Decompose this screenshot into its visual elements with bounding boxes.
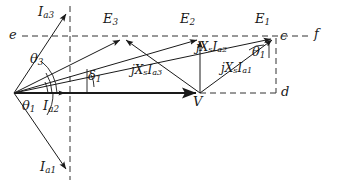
axis-label-c: c: [280, 29, 287, 42]
label-jXsIa2: jXsIa2: [196, 41, 227, 54]
phasor-label-Ia2: Ia2: [43, 99, 59, 113]
phasor-vectors-group: [14, 14, 272, 169]
phasor-label-E2: E2: [180, 12, 195, 26]
phasor-label-E3: E3: [103, 12, 118, 26]
label-jXsIa3: jXsIa3: [131, 64, 162, 77]
angle-label-delta1: δ1: [88, 69, 101, 83]
phasor-label-Ia1: Ia1: [40, 160, 56, 174]
angle-label-theta3: θ3: [30, 52, 43, 66]
phasor-label-E1: E1: [255, 12, 270, 26]
axis-label-e: e: [9, 28, 17, 41]
angle-label-theta1-E1: θ1: [252, 45, 265, 59]
phasor-label-V: V: [193, 95, 202, 108]
phasor-diagram-figure: e f c d E1 E2 E3 V Ia3 Ia2 Ia1 jXsIa1 jX…: [0, 0, 337, 191]
axis-label-d: d: [281, 85, 289, 98]
label-jXsIa1: jXsIa1: [221, 62, 252, 75]
phasor-label-Ia3: Ia3: [38, 5, 54, 19]
angle-label-theta1-origin: θ1: [22, 99, 35, 113]
angle-arcs-group: [41, 40, 269, 115]
axis-label-f: f: [314, 27, 319, 40]
